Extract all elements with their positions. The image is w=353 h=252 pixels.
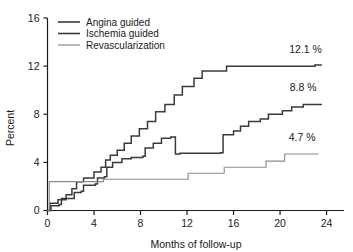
step-chart-svg: 0481216 04812162024 12.1 %8.8 %4.7 % Ang… (0, 0, 353, 252)
y-tick-label: 16 (28, 12, 40, 24)
x-tick-label: 16 (228, 217, 240, 229)
x-tick-label: 8 (138, 217, 144, 229)
y-tick-label: 8 (34, 108, 40, 120)
legend-label: Revascularization (86, 40, 165, 51)
x-tick-label: 4 (91, 217, 97, 229)
chart-background (0, 0, 353, 252)
x-tick-label: 0 (45, 217, 51, 229)
legend-label: Ischemia guided (86, 28, 159, 39)
endpoint-label: 4.7 % (289, 131, 316, 143)
y-tick-label: 12 (28, 60, 40, 72)
chart-figure: 0481216 04812162024 12.1 %8.8 %4.7 % Ang… (0, 0, 353, 252)
legend-label: Angina guided (86, 17, 150, 28)
endpoint-label: 12.1 % (289, 43, 322, 55)
y-tick-label: 4 (34, 156, 40, 168)
y-axis-title: Percent (4, 110, 16, 146)
endpoint-label: 8.8 % (290, 81, 317, 93)
x-tick-label: 12 (181, 217, 193, 229)
y-tick-label: 0 (34, 204, 40, 216)
x-tick-label: 20 (274, 217, 286, 229)
x-axis-title: Months of follow-up (150, 238, 241, 250)
x-tick-label: 24 (321, 217, 333, 229)
chart-legend: Angina guidedIschemia guidedRevasculariz… (58, 17, 165, 51)
